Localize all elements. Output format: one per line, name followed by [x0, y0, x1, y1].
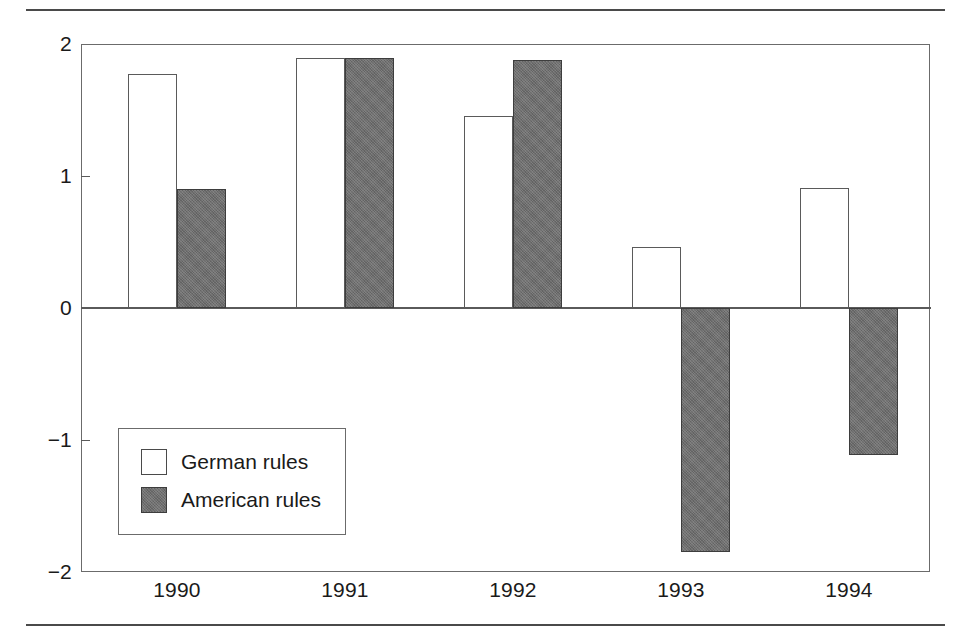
y-tick-label-1: 1 — [14, 165, 72, 186]
legend-item-american[interactable]: American rules — [141, 487, 321, 513]
legend-swatch-american-icon — [141, 487, 167, 513]
bar-german-1991[interactable] — [296, 58, 345, 308]
x-tick-label-1994: 1994 — [789, 578, 909, 602]
bar-german-1990[interactable] — [128, 74, 177, 308]
bar-american-1994[interactable] — [849, 308, 898, 455]
x-tick-label-1991: 1991 — [285, 578, 405, 602]
legend-item-german[interactable]: German rules — [141, 449, 308, 475]
x-tick-label-1992: 1992 — [453, 578, 573, 602]
legend-swatch-german-icon — [141, 449, 167, 475]
bar-american-1992[interactable] — [513, 60, 562, 308]
x-tick-label-1990: 1990 — [117, 578, 237, 602]
y-tick-label-2: 2 — [14, 33, 72, 54]
x-tick-label-1993: 1993 — [621, 578, 741, 602]
bar-german-1993[interactable] — [632, 247, 681, 308]
bar-german-1992[interactable] — [464, 116, 513, 308]
chart-legend: German rules American rules — [118, 428, 346, 535]
bar-german-1994[interactable] — [800, 188, 849, 308]
y-tick-mark-1 — [81, 176, 90, 177]
bar-american-1990[interactable] — [177, 189, 226, 308]
y-tick-label-0: 0 — [14, 297, 72, 318]
bar-american-1991[interactable] — [345, 58, 394, 308]
legend-label-american: American rules — [181, 488, 321, 512]
bar-american-1993[interactable] — [681, 308, 730, 552]
y-axis-labels: 2 1 0 −1 −2 — [0, 0, 72, 640]
y-tick-label-neg-1: −1 — [14, 429, 72, 450]
y-tick-label-neg-2: −2 — [14, 561, 72, 582]
y-tick-mark-neg-1 — [81, 440, 90, 441]
bar-chart-figure: 2 1 0 −1 −2 1990 1991 1992 1993 1994 Ger… — [0, 0, 971, 640]
legend-label-german: German rules — [181, 450, 308, 474]
